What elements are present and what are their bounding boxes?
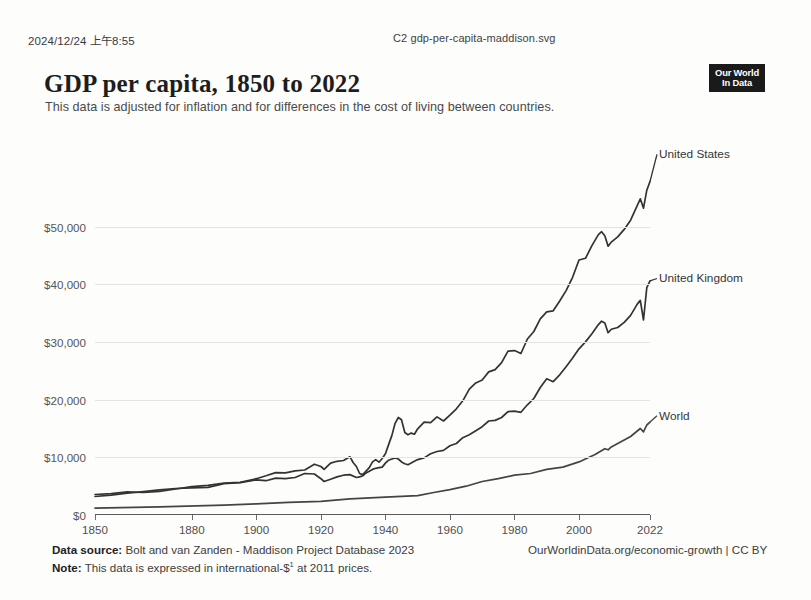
x-axis-tick — [514, 515, 515, 520]
y-axis-tick-label: $40,000 — [10, 278, 86, 291]
page-title: GDP per capita, 1850 to 2022 — [44, 70, 360, 98]
y-axis-tick-label: $0 — [10, 509, 86, 522]
x-axis-tick-label: 1980 — [502, 523, 528, 536]
x-axis-tick — [256, 515, 257, 520]
series-line — [95, 182, 650, 495]
x-axis-tick-label: 1850 — [82, 523, 108, 536]
x-axis-tick-label: 2000 — [566, 523, 592, 536]
x-axis-tick-label: 1900 — [243, 523, 269, 536]
series-line — [95, 281, 650, 497]
gridline-y — [95, 342, 650, 343]
note-label: Note: — [52, 561, 82, 574]
x-axis-tick — [95, 515, 96, 520]
y-axis-tick-label: $50,000 — [10, 220, 86, 233]
gridline-y — [95, 227, 650, 228]
series-label-world: World — [659, 409, 690, 423]
page-root: 2024/12/24 上午8:55 C2 gdp-per-capita-madd… — [0, 0, 811, 600]
attribution-link[interactable]: OurWorldinData.org/economic-growth | CC … — [528, 543, 767, 556]
gridline-y — [95, 400, 650, 401]
data-source-label: Data source: — [52, 543, 122, 556]
x-axis-tick — [321, 515, 322, 520]
series-line — [95, 422, 650, 508]
chart-series-svg — [95, 140, 650, 515]
series-label-connector — [650, 279, 657, 281]
print-date: 2024/12/24 上午8:55 — [28, 32, 135, 48]
series-label-united-states: United States — [659, 147, 730, 161]
our-world-in-data-logo: Our World In Data — [709, 64, 765, 92]
series-label-connector — [650, 416, 657, 422]
x-axis-tick — [579, 515, 580, 520]
gridline-y — [95, 457, 650, 458]
series-label-connector — [650, 154, 657, 181]
data-source-text: Bolt and van Zanden - Maddison Project D… — [125, 543, 414, 556]
series-label-united-kingdom: United Kingdom — [659, 271, 743, 285]
note-text-before: This data is expressed in international-… — [85, 561, 290, 574]
x-axis-tick — [192, 515, 193, 520]
x-axis-tick — [650, 515, 651, 520]
x-axis-tick-label: 1960 — [437, 523, 463, 536]
x-axis-tick — [450, 515, 451, 520]
x-axis-line — [95, 514, 650, 515]
y-axis-tick-label: $10,000 — [10, 451, 86, 464]
y-axis-tick-label: $30,000 — [10, 335, 86, 348]
data-source-line: Data source: Bolt and van Zanden - Maddi… — [52, 543, 414, 556]
note-line: Note: This data is expressed in internat… — [52, 560, 372, 574]
page-subtitle: This data is adjusted for inflation and … — [45, 100, 554, 114]
x-axis-tick-label: 1920 — [308, 523, 334, 536]
print-filename: C2 gdp-per-capita-maddison.svg — [393, 32, 556, 44]
gridline-y — [95, 284, 650, 285]
x-axis-tick-label: 2022 — [637, 523, 663, 536]
logo-line-2: In Data — [722, 78, 752, 88]
note-text-after: at 2011 prices. — [294, 561, 372, 574]
x-axis-tick — [385, 515, 386, 520]
print-header: 2024/12/24 上午8:55 C2 gdp-per-capita-madd… — [0, 32, 811, 50]
x-axis-tick-label: 1940 — [373, 523, 399, 536]
x-axis-tick-label: 1880 — [179, 523, 205, 536]
y-axis-tick-label: $20,000 — [10, 393, 86, 406]
chart-plot-area: $0$10,000$20,000$30,000$40,000$50,000185… — [95, 140, 650, 515]
